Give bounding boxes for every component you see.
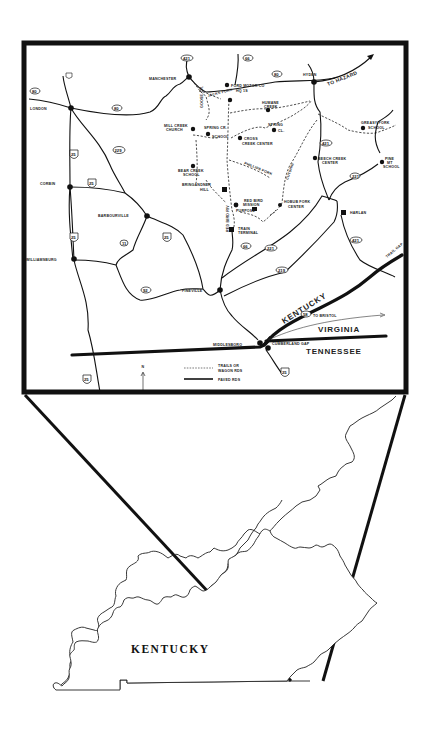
label-greasy-fork: GREASY FORK xyxy=(361,121,390,125)
dot-bringandner-hill xyxy=(222,187,227,192)
route-marker-66-north: 66 xyxy=(243,55,253,61)
label-bringandner-sub: HILL xyxy=(200,188,209,192)
dot-bear-creek-school xyxy=(191,164,195,168)
dot-spring-cl xyxy=(272,128,276,132)
svg-text:80: 80 xyxy=(114,106,119,111)
label-spring-cl: SPRING xyxy=(268,123,283,127)
route-marker-80-east: 80 xyxy=(272,71,282,77)
svg-text:66: 66 xyxy=(243,244,248,249)
label-spring-cr: SPRING CR. xyxy=(204,126,227,130)
dot-manchester xyxy=(186,74,192,80)
label-bear-creek-sub: SCHOOL xyxy=(183,173,200,177)
dot-london xyxy=(68,105,74,111)
route-marker-229: 229 xyxy=(113,147,125,154)
svg-text:421: 421 xyxy=(183,56,191,61)
dot-spring-cr-school xyxy=(206,132,210,136)
label-purpose: PURPOSE xyxy=(236,209,255,213)
svg-text:25: 25 xyxy=(84,377,89,382)
label-spring-cr-sub: SCHOOL xyxy=(212,135,229,139)
dot-greasy-fork-school xyxy=(361,126,365,130)
dot-corbin xyxy=(67,184,73,190)
label-cumberland-gap: CUMBERLAND GAP xyxy=(272,342,310,346)
shield-25e-corbin: 25 xyxy=(88,179,96,188)
shield-25w-north: 25 xyxy=(70,150,78,159)
svg-text:221: 221 xyxy=(352,174,360,179)
route-marker-421-hyden: 421 xyxy=(320,140,332,146)
dot-hyden xyxy=(311,79,317,85)
label-manchester: MANCHESTER xyxy=(149,77,177,81)
dot-middlesboro xyxy=(257,340,263,346)
label-middlesboro: MIDDLESBORO xyxy=(213,343,242,347)
dot-williamsburg xyxy=(71,256,77,262)
legend-trail-label-2: WAGON RDS xyxy=(218,369,243,373)
dot-ford-motor xyxy=(225,83,229,87)
dot-cumberland-gap xyxy=(265,345,271,351)
route-marker-221-north: 221 xyxy=(350,173,360,179)
route-marker-221: 221 xyxy=(265,245,277,251)
label-to-bristol: TO BRISTOL xyxy=(313,314,337,318)
dot-barbourville xyxy=(144,213,150,219)
label-cross-sub: CREEK CENTER xyxy=(242,142,273,146)
route-marker-92: 92 xyxy=(141,287,151,293)
route-marker-219: 219 xyxy=(276,267,288,273)
shield-25e-south: 25 xyxy=(281,368,289,377)
label-greasy-fork-sub: SCHOOL xyxy=(368,126,385,130)
label-ford-motor-sub: HQ 1S xyxy=(236,89,248,93)
route-marker-80-west: 80 xyxy=(30,88,40,94)
label-harlan: HARLAN xyxy=(350,211,367,215)
svg-text:421: 421 xyxy=(322,141,330,146)
svg-text:229: 229 xyxy=(115,148,123,153)
shield-25w-williamsburg: 25 xyxy=(70,233,78,242)
label-hobub-fork: HOBUB FORK xyxy=(284,200,311,204)
dot-pineville xyxy=(217,287,223,293)
label-train-sub: TERMINAL xyxy=(238,231,259,235)
shield-25w-south: 25 xyxy=(83,375,91,384)
label-williamsburg: WILLIAMSBURG xyxy=(26,258,57,262)
label-humane-sub: CREEK xyxy=(264,105,278,109)
svg-text:25: 25 xyxy=(71,235,76,240)
north-label: N xyxy=(142,365,145,369)
dot-cross-creek-center xyxy=(238,136,242,140)
dot-harlan xyxy=(341,210,346,215)
svg-text:25: 25 xyxy=(282,370,287,375)
label-hobub-fork-sub: CENTER xyxy=(288,205,304,209)
legend-trail-label-1: TRAILS OR xyxy=(218,364,239,368)
route-marker-58: 58 xyxy=(301,311,311,317)
label-red-bird-sub: MISSION xyxy=(243,203,260,207)
svg-text:421: 421 xyxy=(352,238,360,243)
svg-text:25: 25 xyxy=(164,235,169,240)
label-beech-creek-sub: CENTER xyxy=(322,161,338,165)
label-london: LONDON xyxy=(30,107,47,111)
shield-top-left xyxy=(66,73,72,79)
label-corbin: CORBIN xyxy=(40,182,56,186)
map-figure: KENTUCKY xyxy=(0,0,432,744)
label-bringandner: BRINGANDNER xyxy=(182,183,211,187)
inset-label-virginia: VIRGINIA xyxy=(318,325,360,334)
dot-pine-mt-school xyxy=(380,160,384,164)
label-ford-motor: FORD MOTOR CO xyxy=(231,84,264,88)
svg-text:92: 92 xyxy=(143,288,148,293)
route-marker-80-mid: 80 xyxy=(112,105,122,111)
svg-text:66: 66 xyxy=(245,56,250,61)
svg-text:80: 80 xyxy=(274,72,279,77)
svg-text:80: 80 xyxy=(32,89,37,94)
svg-text:58: 58 xyxy=(303,312,308,317)
dot-hobub-fork-center xyxy=(278,203,282,207)
shield-25e-barbourville: 25 xyxy=(163,233,171,242)
route-marker-11: 11 xyxy=(120,240,128,246)
svg-text:25: 25 xyxy=(89,181,94,186)
inset-label-tennessee: TENNESSEE xyxy=(306,347,362,356)
label-cross: CROSS xyxy=(244,137,258,141)
dot-beech-creek-center xyxy=(313,156,317,160)
svg-text:219: 219 xyxy=(278,268,286,273)
label-hyden: HYDEN xyxy=(303,73,317,77)
label-pine-mt-sub2: SCHOOL xyxy=(383,165,400,169)
dot-mill-creek-church xyxy=(191,127,195,131)
svg-text:221: 221 xyxy=(267,246,275,251)
label-spring-cl-sub: CL. xyxy=(278,129,284,133)
route-marker-421-north: 421 xyxy=(181,55,193,61)
label-barbourville: BARBOURVILLE xyxy=(98,214,129,218)
state-label-kentucky: KENTUCKY xyxy=(131,643,209,655)
label-goose-cr: GOOSE CR. xyxy=(200,86,204,108)
route-marker-421-harlan: 421 xyxy=(350,237,362,243)
